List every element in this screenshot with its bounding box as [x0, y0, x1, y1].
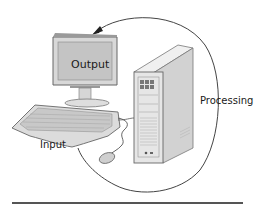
computer-cycle-diagram: [0, 0, 254, 215]
processing-label: Processing: [200, 95, 253, 106]
horizontal-rule: [12, 202, 243, 204]
input-label: Input: [40, 139, 66, 150]
output-label: Output: [71, 58, 109, 71]
keyboard: [12, 105, 120, 147]
system-unit-tower: [134, 45, 193, 163]
